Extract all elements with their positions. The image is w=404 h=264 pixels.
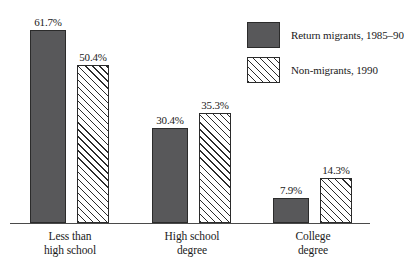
- bar-return-migrants-high-school-degree[interactable]: [152, 128, 188, 223]
- bar-non-migrants-less-than-high-school[interactable]: [77, 65, 109, 223]
- legend-label: Return migrants, 1985–90: [291, 29, 404, 42]
- bar-group-high-school-degree: 30.4% 35.3%: [152, 40, 231, 223]
- legend-swatch-solid-icon: [247, 22, 280, 48]
- bar-value-label: 50.4%: [79, 51, 106, 63]
- bar-slot-g0s0: 61.7%: [30, 30, 66, 223]
- x-axis-label-college-degree: College degree: [263, 229, 363, 257]
- bar-value-label: 14.3%: [322, 164, 349, 176]
- bar-return-migrants-less-than-high-school[interactable]: [30, 30, 66, 223]
- bar-return-migrants-college-degree[interactable]: [273, 198, 309, 223]
- bar-non-migrants-college-degree[interactable]: [320, 178, 352, 223]
- x-axis-baseline: [10, 223, 370, 224]
- x-axis-label-high-school-degree: High school degree: [142, 229, 242, 257]
- legend-swatch-hatched-icon: [247, 57, 280, 83]
- bar-slot-g2s1: 14.3%: [320, 178, 352, 223]
- bar-value-label: 30.4%: [156, 114, 183, 126]
- bar-value-label: 7.9%: [280, 184, 302, 196]
- x-axis-label-less-than-high-school: Less than high school: [20, 229, 120, 257]
- bar-slot-g2s0: 7.9%: [273, 198, 309, 223]
- bar-slot-g0s1: 50.4%: [77, 65, 109, 223]
- chart-legend: Return migrants, 1985–90 Non-migrants, 1…: [247, 22, 400, 92]
- bar-non-migrants-high-school-degree[interactable]: [199, 113, 231, 223]
- bar-slot-g1s0: 30.4%: [152, 128, 188, 223]
- bar-group-less-than-high-school: 61.7% 50.4%: [30, 40, 109, 223]
- legend-item-non-migrants[interactable]: Non-migrants, 1990: [247, 57, 400, 83]
- bar-value-label: 35.3%: [201, 99, 228, 111]
- legend-item-return-migrants[interactable]: Return migrants, 1985–90: [247, 22, 400, 48]
- legend-label: Non-migrants, 1990: [291, 64, 378, 77]
- bar-value-label: 61.7%: [34, 16, 61, 28]
- bar-slot-g1s1: 35.3%: [199, 113, 231, 223]
